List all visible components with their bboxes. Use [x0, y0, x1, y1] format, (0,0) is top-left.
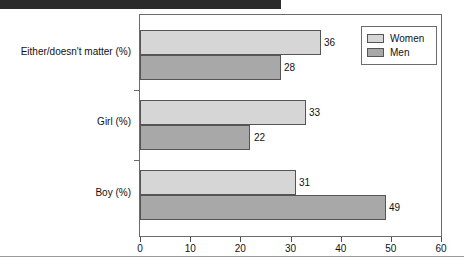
category-label-girl: Girl (%) — [0, 116, 131, 127]
x-axis-label-10: 10 — [185, 243, 196, 254]
horizontal-bar-chart: Either/doesn't matter (%) Girl (%) Boy (… — [0, 0, 464, 255]
bar-women-boy[interactable] — [140, 170, 296, 195]
x-axis-label-60: 60 — [435, 243, 446, 254]
legend-label-women: Women — [390, 33, 424, 44]
bar-women-girl[interactable] — [140, 100, 306, 125]
x-axis-tick-40 — [341, 237, 342, 242]
footer-rule — [0, 256, 464, 257]
category-label-boy: Boy (%) — [0, 187, 131, 198]
category-label-either: Either/doesn't matter (%) — [0, 46, 131, 57]
x-axis-tick-60 — [441, 237, 442, 242]
x-axis-tick-30 — [291, 237, 292, 242]
x-axis-tick-10 — [190, 237, 191, 242]
x-axis-label-30: 30 — [285, 243, 296, 254]
bar-men-either[interactable] — [140, 55, 281, 80]
bar-value-women-boy: 31 — [299, 170, 310, 195]
x-axis-tick-0 — [140, 237, 141, 242]
legend: Women Men — [361, 26, 437, 65]
bar-women-either[interactable] — [140, 30, 321, 55]
legend-entry-men[interactable]: Men — [367, 46, 431, 59]
bar-value-men-boy: 49 — [389, 195, 400, 220]
legend-swatch-women-icon — [367, 34, 384, 43]
bar-value-women-girl: 33 — [309, 100, 320, 125]
bar-men-boy[interactable] — [140, 195, 386, 220]
x-axis-label-40: 40 — [335, 243, 346, 254]
x-axis-label-0: 0 — [137, 243, 143, 254]
x-axis-label-50: 50 — [385, 243, 396, 254]
bar-men-girl[interactable] — [140, 125, 250, 150]
x-axis-tick-50 — [391, 237, 392, 242]
legend-entry-women[interactable]: Women — [367, 32, 431, 45]
bar-value-men-either: 28 — [284, 55, 295, 80]
x-axis-label-20: 20 — [235, 243, 246, 254]
bar-value-men-girl: 22 — [254, 125, 265, 150]
bar-value-women-either: 36 — [324, 30, 335, 55]
legend-label-men: Men — [390, 47, 409, 58]
legend-swatch-men-icon — [367, 48, 384, 57]
x-axis-tick-20 — [240, 237, 241, 242]
